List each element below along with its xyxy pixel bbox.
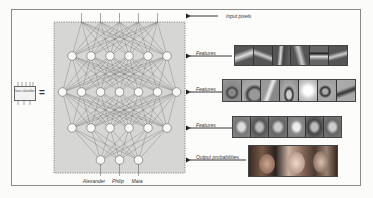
feature-tile: [288, 117, 306, 137]
network-node: [163, 124, 172, 133]
label-features-3: Features: [196, 122, 216, 128]
face-photo-3: [313, 151, 329, 173]
face-photo-1: [259, 154, 275, 174]
feature-tile: [337, 80, 355, 101]
input-lines: [82, 13, 158, 22]
network-node: [144, 124, 153, 133]
network-node: [134, 156, 143, 165]
network-node: [106, 124, 115, 133]
network-node: [115, 156, 124, 165]
feature-tile: [310, 46, 329, 65]
network-node: [163, 52, 172, 61]
label-features-2: Features: [196, 86, 216, 92]
feature-tile: [280, 80, 299, 101]
feature-tile: [291, 46, 310, 65]
network-node: [115, 88, 124, 97]
part-features-strip: [222, 79, 356, 102]
output-label-philip: Philip: [112, 178, 124, 184]
network-node: [172, 88, 181, 97]
network-node: [134, 88, 143, 97]
label-output-probabilities: Output probabilities: [196, 154, 239, 160]
output-label-maia: Maia: [132, 178, 143, 184]
edge-features-strip: [234, 45, 348, 66]
network-node: [77, 88, 86, 97]
face-photo-2: [287, 152, 305, 174]
feature-tile: [306, 117, 324, 137]
network-node: [125, 52, 134, 61]
output-label-alexander: Alexander: [83, 178, 106, 184]
feature-tile: [261, 80, 280, 101]
network-node: [144, 52, 153, 61]
network-node: [68, 52, 77, 61]
feature-tile: [318, 80, 337, 101]
feature-tile: [223, 80, 242, 101]
feature-tile: [235, 46, 254, 65]
network-node: [125, 124, 134, 133]
feature-tile: [324, 117, 341, 137]
network-node: [87, 124, 96, 133]
chip-pins: [0, 0, 60, 110]
feature-tile: [299, 80, 318, 101]
feature-tile: [254, 46, 273, 65]
feature-tile: [242, 80, 261, 101]
feature-tile: [233, 117, 251, 137]
feature-tile: [329, 46, 347, 65]
network-node: [96, 88, 105, 97]
feature-tile: [251, 117, 269, 137]
network-node: [96, 156, 105, 165]
output-faces-photo: [248, 145, 338, 177]
network-node: [87, 52, 96, 61]
label-features-1: Features: [196, 50, 216, 56]
feature-tile: [273, 46, 292, 65]
label-input-pixels: Input pixels: [226, 13, 251, 19]
face-features-strip: [232, 116, 342, 138]
feature-tile: [269, 117, 287, 137]
equals-sign: =: [39, 88, 45, 98]
network-node: [153, 88, 162, 97]
network-node: [106, 52, 115, 61]
network-node: [68, 124, 77, 133]
